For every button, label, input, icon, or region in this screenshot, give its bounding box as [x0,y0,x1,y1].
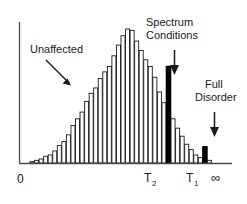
histogram-bar [66,135,70,163]
annotation-full-disorder-line2: Disorder [195,91,237,103]
histogram-bar [112,56,116,163]
axis-tick-t2: T [144,171,152,185]
annotation-spectrum-line1: Spectrum [146,16,193,28]
histogram-bar [116,45,120,163]
histogram-bar [94,88,98,163]
histogram-bar [121,36,125,163]
histogram-bar [85,101,89,163]
axis-tick-origin: 0 [17,172,24,186]
histogram-bar [62,142,66,163]
chart-canvas: Unaffected Spectrum Conditions Full Diso… [0,0,247,204]
axis-tick-t1: T [186,171,194,185]
histogram-bar [53,151,57,163]
histogram-bar [162,103,166,163]
histogram-bar [35,160,39,163]
histogram-bar [189,150,193,163]
histogram-bar [157,92,161,163]
histogram-bar [139,50,143,163]
histogram-bar [176,128,180,163]
axis-tick-infinity: ∞ [211,170,220,185]
histogram-bar [48,155,52,163]
histogram-bar [194,155,198,163]
annotation-unaffected-label: Unaffected [30,43,83,55]
histogram-bar [185,144,189,163]
histogram-bar [180,136,184,163]
histogram-bar [44,156,48,163]
annotation-spectrum-line2: Conditions [146,29,198,41]
histogram-bar [103,72,107,163]
histogram-figure: Unaffected Spectrum Conditions Full Diso… [0,0,247,204]
histogram-bar-highlighted [167,67,171,163]
histogram-bar [57,146,61,163]
histogram-bar [153,77,157,163]
histogram-bar [198,158,202,163]
histogram-bar [89,93,93,163]
histogram-bar [30,162,34,163]
histogram-bar [144,60,148,163]
axis-tick-t1-subscript: 1 [194,179,199,188]
histogram-bar [126,29,130,163]
histogram-bar [71,125,75,163]
histogram-bar [130,30,134,163]
histogram-bar-highlighted [203,147,207,163]
histogram-bar [171,119,175,163]
axis-tick-t2-subscript: 2 [152,179,157,188]
histogram-bar [148,67,152,163]
histogram-bar [39,159,43,163]
histogram-bar [207,160,211,163]
histogram-bar [135,41,139,163]
histogram-bar [76,119,80,163]
histogram-bar [107,67,111,163]
histogram-bar [80,112,84,163]
annotation-full-disorder-line1: Full [205,78,223,90]
histogram-bar [98,79,102,163]
